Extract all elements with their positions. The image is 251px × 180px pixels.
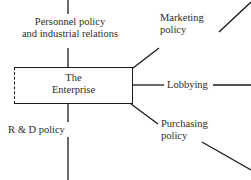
- node-label-purchasing-policy-line-1: Purchasing: [161, 118, 208, 130]
- node-label-personnel-policy-line-1: Personnel policy: [8, 16, 132, 28]
- node-label-marketing-policy: Marketing policy: [160, 12, 204, 35]
- node-label-marketing-policy-line-2: policy: [160, 24, 204, 36]
- connector-marketing-policy-inner: [133, 48, 159, 68]
- diagram-canvas: The Enterprise Personnel policy and indu…: [0, 0, 251, 180]
- node-label-r-and-d-policy-line-1: R & D policy: [8, 124, 65, 136]
- node-label-personnel-policy-line-2: and industrial relations: [8, 28, 132, 40]
- connector-marketing-policy-outer: [219, 2, 251, 32]
- node-label-marketing-policy-line-1: Marketing: [160, 12, 204, 24]
- enterprise-node-label-line-1: The: [14, 72, 133, 84]
- node-label-lobbying-line-1: Lobbying: [167, 79, 208, 91]
- enterprise-node-label-line-2: Enterprise: [14, 84, 133, 96]
- connector-purchasing-policy-outer: [202, 142, 251, 170]
- node-label-personnel-policy: Personnel policy and industrial relation…: [8, 16, 132, 39]
- node-label-r-and-d-policy: R & D policy: [8, 124, 65, 136]
- node-label-purchasing-policy: Purchasing policy: [161, 118, 208, 141]
- enterprise-node-label: The Enterprise: [14, 72, 133, 96]
- connector-purchasing-policy-inner: [131, 104, 158, 124]
- node-label-purchasing-policy-line-2: policy: [161, 130, 208, 142]
- node-label-lobbying: Lobbying: [167, 79, 208, 91]
